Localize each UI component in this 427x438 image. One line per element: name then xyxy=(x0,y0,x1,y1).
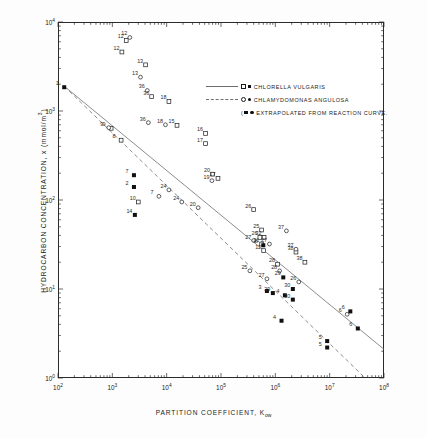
data-point-label: 5 xyxy=(319,341,322,347)
data-point-label: 16 xyxy=(197,126,203,132)
data-point-label: 18 xyxy=(157,118,163,124)
data-point-label: 8 xyxy=(255,238,258,244)
data-point-label: 11 xyxy=(255,244,261,250)
data-point-label: 36 xyxy=(140,116,146,122)
legend-label: CHLORELLA VULGARIS xyxy=(254,84,326,90)
data-point-label: 24 xyxy=(173,195,179,201)
data-point-label: 36 xyxy=(143,90,149,96)
data-point-label: 25 xyxy=(253,223,259,229)
y-axis-title: HYDROCARBON CONCENTRATION, x (mmol/m3) xyxy=(37,41,46,361)
x-axis-title: PARTITION COEFFICIENT, Kow xyxy=(0,409,427,418)
legend-label: CHLAMYDOMONAS ANGULOSA xyxy=(254,97,349,103)
data-point-label: 28 xyxy=(269,257,275,263)
data-point-label: 20 xyxy=(190,201,196,207)
legend-entry: CHLORELLA VULGARIS xyxy=(206,80,396,93)
legend-marker-filled-circle xyxy=(248,98,251,101)
data-point-label: 30 xyxy=(284,282,290,288)
data-point-label: 29 xyxy=(275,270,281,276)
y-tick-label-origin: 100 xyxy=(36,374,55,382)
x-tick-label: 107 xyxy=(325,383,335,391)
legend-entry: (EXTRAPOLATED FROM REACTION CURVE. xyxy=(206,106,396,119)
data-point-label: 24 xyxy=(160,183,166,189)
data-point-label: 9 xyxy=(100,121,103,127)
data-point-label: 3 xyxy=(258,284,261,290)
legend-marker-filled-square xyxy=(248,85,251,88)
data-point-label: 5 xyxy=(319,334,322,340)
plot-frame xyxy=(58,22,384,378)
data-point-label: 4 xyxy=(276,288,279,294)
data-point-label: 27 xyxy=(245,234,251,240)
legend-label: EXTRAPOLATED FROM REACTION CURVE. xyxy=(256,110,388,116)
data-point-label: 19 xyxy=(203,174,209,180)
figure-root: 102103104105106107108104103102101100 121… xyxy=(0,0,427,438)
data-point-label: 15 xyxy=(169,118,175,124)
data-point-label: 17 xyxy=(197,137,203,143)
data-point-label: 18 xyxy=(160,94,166,100)
legend-line-swatch xyxy=(206,83,238,90)
data-point-label: 37 xyxy=(287,242,293,248)
data-point-label: 26 xyxy=(290,275,296,281)
legend-marker-filled-square xyxy=(244,111,247,114)
data-point-label: 7 xyxy=(125,168,128,174)
data-point-label: 2 xyxy=(125,180,128,186)
x-tick-label: 106 xyxy=(270,383,280,391)
chart-legend: CHLORELLA VULGARISCHLAMYDOMONAS ANGULOSA… xyxy=(206,80,396,119)
data-point-label: 25 xyxy=(241,264,247,270)
data-point-label: 7 xyxy=(150,189,153,195)
data-point-label: 27 xyxy=(258,272,264,278)
data-point-label: 13 xyxy=(132,70,138,76)
data-point-label: 14 xyxy=(126,208,132,214)
data-point-label: 12 xyxy=(113,45,119,51)
data-point-label: 17 xyxy=(209,171,215,177)
legend-line-swatch xyxy=(206,109,238,116)
data-point-label: 30 xyxy=(284,293,290,299)
legend-paren: ( xyxy=(241,110,243,116)
legend-marker-open-square xyxy=(241,84,246,89)
data-point-label: 37 xyxy=(278,224,284,230)
x-tick-label: 102 xyxy=(53,383,63,391)
data-point-label: 29 xyxy=(264,286,270,292)
x-tick-label: 108 xyxy=(379,383,389,391)
y-tick-label: 104 xyxy=(36,18,55,26)
legend-marker-open-circle xyxy=(241,97,246,102)
x-tick-label: 103 xyxy=(107,383,117,391)
data-point-label: 1 xyxy=(56,80,59,86)
x-tick-label: 104 xyxy=(162,383,172,391)
data-point-label: 26 xyxy=(251,230,257,236)
legend-marker-filled-circle xyxy=(250,111,253,114)
data-point-label: 10 xyxy=(130,195,136,201)
data-point-label: 26 xyxy=(245,203,251,209)
data-point-label: 13 xyxy=(137,58,143,64)
data-point-label: 36 xyxy=(139,83,145,89)
legend-line-swatch xyxy=(206,96,238,103)
data-point-label: 6 xyxy=(342,304,345,310)
x-tick-label: 105 xyxy=(216,383,226,391)
data-point-label: 28 xyxy=(271,264,277,270)
data-point-label: 4 xyxy=(273,314,276,320)
data-point-label: 6 xyxy=(349,321,352,327)
data-point-label: 20 xyxy=(204,167,210,173)
legend-entry: CHLAMYDOMONAS ANGULOSA xyxy=(206,93,396,106)
data-point-label: 27 xyxy=(261,237,267,243)
data-point-label: 12 xyxy=(121,30,127,36)
data-point-label: 8 xyxy=(113,133,116,139)
data-point-label: 38 xyxy=(296,255,302,261)
